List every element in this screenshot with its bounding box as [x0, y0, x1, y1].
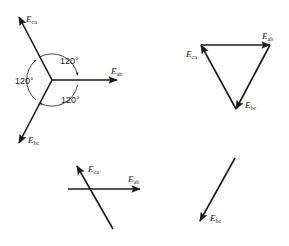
angle-label-bottom: 120°	[61, 95, 80, 105]
vector-eca	[201, 45, 236, 109]
label-ebc: Ebc	[244, 100, 257, 111]
vector-ebc	[236, 45, 270, 109]
phasor-diagram-canvas: 120° 120° 120° Eab Eca Ebc Eab Eca Ebc E…	[0, 0, 289, 246]
label-eab: Eab	[127, 174, 139, 185]
label-eca: Eca	[185, 49, 197, 60]
star-phasor-panel: 120° 120° 120° Eab Eca Ebc	[15, 14, 122, 146]
vector-ebc	[200, 158, 235, 221]
label-eca: Eca	[25, 14, 37, 25]
angle-label-top: 120°	[60, 56, 79, 66]
label-ebc: Ebc	[27, 135, 40, 146]
label-ebc: Ebc	[209, 213, 222, 224]
triangle-phasor-panel: Eab Eca Ebc	[185, 31, 273, 111]
vector-eca	[19, 17, 52, 80]
result-phasor-panel: Ebc	[200, 158, 235, 224]
vector-eca	[77, 166, 113, 229]
label-eca: Eca	[87, 164, 99, 175]
label-eab: Eab	[110, 66, 122, 77]
label-eab: Eab	[261, 31, 273, 42]
sum-phasor-panel: Eca Eab	[68, 164, 140, 229]
angle-label-left: 120°	[15, 76, 34, 86]
vector-ebc	[19, 80, 52, 143]
